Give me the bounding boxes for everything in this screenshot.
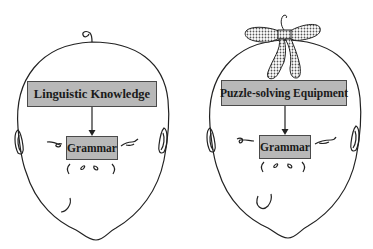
right-eye-icon [315, 137, 336, 144]
right-ear-icon [351, 126, 359, 151]
diagram-canvas [0, 0, 373, 249]
left-eye-icon [237, 138, 254, 143]
nose-left-icon [68, 164, 70, 174]
mouth-icon [257, 194, 271, 208]
mouth-icon [61, 198, 70, 212]
right-eye-icon [121, 139, 138, 146]
nose-right-icon [112, 164, 114, 174]
nose-left-icon [262, 162, 264, 172]
right-ear-inner-icon [161, 133, 164, 150]
left-arrow [89, 107, 96, 136]
right-ear-icon [159, 128, 167, 153]
right-ear-inner-icon [353, 131, 356, 148]
nostril-right-icon [94, 166, 98, 170]
left-hair-curl-icon [83, 32, 92, 42]
linguistic-knowledge-box: Linguistic Knowledge [27, 81, 157, 107]
puzzle-solving-equipment-box: Puzzle-solving Equipment [221, 80, 347, 106]
left-eye-icon [47, 142, 62, 147]
nostril-right-icon [288, 164, 292, 168]
nostril-left-icon [81, 166, 85, 170]
nose-right-icon [302, 162, 304, 172]
bow-icon [245, 15, 320, 79]
left-grammar-box: Grammar [66, 136, 118, 160]
nostril-left-icon [274, 164, 278, 168]
right-grammar-box: Grammar [259, 135, 311, 159]
right-arrow [282, 106, 289, 135]
